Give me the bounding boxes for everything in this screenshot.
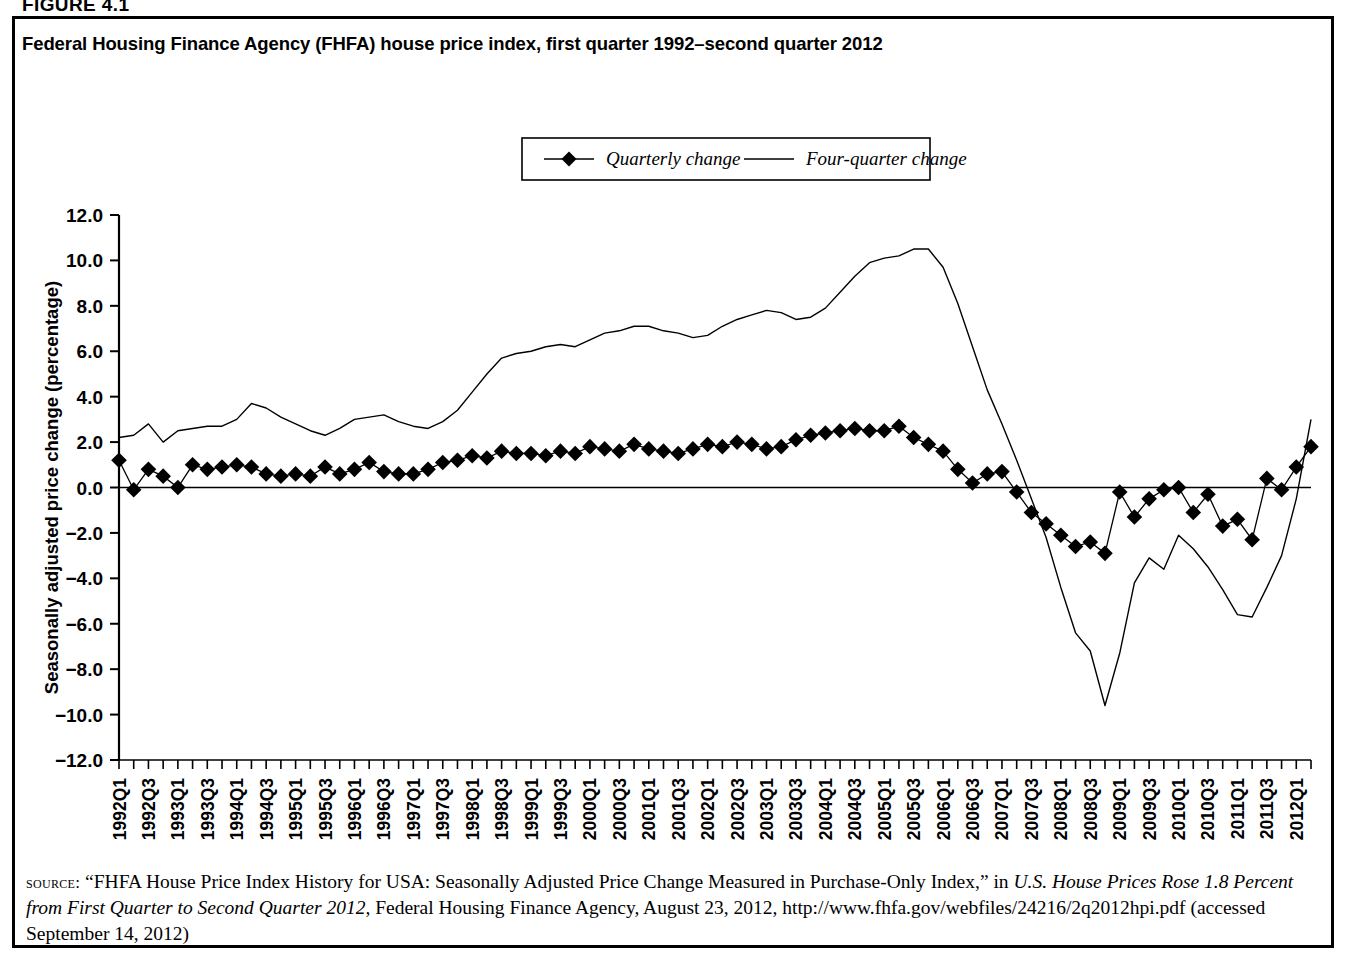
data-point-diamond	[141, 462, 157, 478]
data-point-diamond	[921, 437, 937, 453]
data-point-diamond	[494, 443, 510, 459]
data-point-diamond	[1082, 534, 1098, 550]
data-point-diamond	[862, 423, 878, 439]
data-point-diamond	[994, 464, 1010, 480]
x-axis-tick-label: 2008Q3	[1081, 778, 1101, 841]
x-axis-tick-label: 2000Q3	[610, 778, 630, 841]
x-axis-tick-label: 2000Q1	[580, 778, 600, 841]
data-point-diamond	[1097, 546, 1113, 562]
data-point-diamond	[1215, 518, 1231, 534]
x-axis-tick-label: 1993Q1	[168, 778, 188, 841]
x-axis-tick-label: 1996Q1	[345, 778, 365, 841]
data-point-diamond	[317, 459, 333, 475]
data-point-diamond	[361, 455, 377, 471]
x-axis-tick-label: 2003Q1	[757, 778, 777, 841]
x-axis-tick-label: 1997Q1	[404, 778, 424, 841]
x-axis-tick-label: 1993Q3	[198, 778, 218, 841]
data-point-diamond	[729, 434, 745, 450]
x-axis-tick-label: 2011Q3	[1257, 778, 1277, 840]
y-axis-tick-label: −6.0	[65, 614, 103, 635]
data-point-diamond	[876, 423, 892, 439]
data-point-diamond	[155, 468, 171, 484]
figure-label: FIGURE 4.1	[22, 0, 129, 16]
legend-label-quarterly: Quarterly change	[606, 148, 741, 169]
x-axis-tick-label: 2007Q3	[1022, 778, 1042, 841]
x-axis-tick-label: 1994Q3	[257, 778, 277, 841]
data-point-diamond	[788, 432, 804, 448]
data-point-diamond	[891, 418, 907, 434]
data-point-diamond	[538, 448, 554, 464]
data-point-diamond	[1200, 487, 1216, 503]
data-point-diamond	[597, 441, 613, 457]
data-point-diamond	[818, 425, 834, 441]
data-point-diamond	[1171, 480, 1187, 496]
data-point-diamond	[258, 466, 274, 482]
y-axis-tick-label: −4.0	[65, 568, 103, 589]
y-axis-tick-label: −12.0	[55, 750, 103, 771]
data-point-diamond	[744, 437, 760, 453]
data-point-diamond	[1053, 527, 1069, 543]
x-axis-tick-label: 2004Q1	[816, 778, 836, 841]
y-axis-tick-label: 4.0	[77, 387, 103, 408]
data-point-diamond	[450, 452, 466, 468]
data-point-diamond	[479, 450, 495, 466]
x-axis-tick-label: 2010Q1	[1169, 778, 1189, 841]
x-axis-tick-label: 2010Q3	[1198, 778, 1218, 841]
x-axis-tick-label: 1992Q1	[110, 778, 130, 841]
data-point-diamond	[685, 441, 701, 457]
source-text-part1: “FHFA House Price Index History for USA:…	[85, 871, 1013, 892]
x-axis-tick-label: 2011Q1	[1228, 778, 1248, 840]
data-point-diamond	[464, 448, 480, 464]
y-axis-tick-label: 10.0	[66, 250, 103, 271]
x-axis-tick-label: 2001Q1	[639, 778, 659, 841]
data-point-diamond	[170, 480, 186, 496]
data-point-diamond	[1141, 491, 1157, 507]
data-point-diamond	[1068, 539, 1084, 555]
source-note: source: “FHFA House Price Index History …	[26, 869, 1316, 947]
x-axis-tick-label: 2004Q3	[845, 778, 865, 841]
data-point-diamond	[420, 462, 436, 478]
x-axis-tick-label: 2001Q3	[669, 778, 689, 841]
source-prefix: source:	[26, 873, 80, 892]
data-point-diamond	[332, 466, 348, 482]
data-point-diamond	[626, 437, 642, 453]
data-point-diamond	[1156, 482, 1172, 498]
data-point-diamond	[1024, 505, 1040, 521]
x-axis-tick-label: 1992Q3	[139, 778, 159, 841]
data-point-diamond	[229, 457, 245, 473]
data-point-diamond	[244, 459, 260, 475]
data-point-diamond	[847, 421, 863, 437]
data-point-diamond	[700, 437, 716, 453]
x-axis-tick-label: 1996Q3	[374, 778, 394, 841]
y-axis-tick-label: 0.0	[77, 478, 103, 499]
x-axis-tick-label: 2005Q1	[875, 778, 895, 841]
y-axis-tick-label: −2.0	[65, 523, 103, 544]
data-point-diamond	[1127, 509, 1143, 525]
data-point-diamond	[832, 423, 848, 439]
data-point-diamond	[214, 459, 230, 475]
y-axis-tick-label: −8.0	[65, 659, 103, 680]
y-axis-title: Seasonally adjusted price change (percen…	[41, 281, 62, 694]
x-axis-tick-label: 2005Q3	[904, 778, 924, 841]
legend-label-four-quarter: Four-quarter change	[805, 148, 967, 169]
data-point-diamond	[553, 443, 569, 459]
y-axis-tick-label: 2.0	[77, 432, 103, 453]
data-point-diamond	[935, 443, 951, 459]
data-point-diamond	[273, 468, 289, 484]
data-point-diamond	[406, 466, 422, 482]
y-axis-tick-label: 8.0	[77, 296, 103, 317]
x-axis-tick-label: 2006Q1	[934, 778, 954, 841]
data-point-diamond	[670, 446, 686, 462]
x-axis-tick-label: 1999Q1	[522, 778, 542, 841]
x-axis-tick-label: 2012Q1	[1287, 778, 1307, 841]
data-point-diamond	[773, 439, 789, 455]
chart-plot-area: Quarterly changeFour-quarter change12.01…	[12, 16, 1334, 861]
data-point-diamond	[111, 452, 127, 468]
y-axis-tick-label: −10.0	[55, 705, 103, 726]
data-point-diamond	[1112, 484, 1128, 500]
data-point-diamond	[391, 466, 407, 482]
x-axis-tick-label: 1994Q1	[227, 778, 247, 841]
data-point-diamond	[288, 466, 304, 482]
data-point-diamond	[1244, 532, 1260, 548]
x-axis-tick-label: 2009Q1	[1110, 778, 1130, 841]
